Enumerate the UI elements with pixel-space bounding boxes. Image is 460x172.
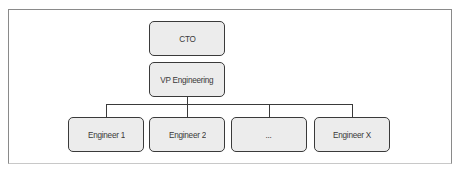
connector-engineer-1 xyxy=(106,104,107,117)
node-engineer-x: Engineer X xyxy=(314,117,390,152)
node-engineer-2-label: Engineer 2 xyxy=(169,129,206,140)
node-vp-engineering: VP Engineering xyxy=(149,62,225,97)
node-engineer-ellipsis: ... xyxy=(231,117,307,152)
node-vp-engineering-label: VP Engineering xyxy=(160,74,213,85)
connector-engineer-x xyxy=(352,104,353,117)
connector-engineer-2 xyxy=(187,104,188,117)
connector-horizontal-bus xyxy=(106,104,354,105)
node-cto-label: CTO xyxy=(179,33,195,44)
node-engineer-ellipsis-label: ... xyxy=(266,129,272,140)
node-cto: CTO xyxy=(149,21,225,56)
connector-engineer-ellipsis xyxy=(269,104,270,117)
node-engineer-1-label: Engineer 1 xyxy=(88,129,125,140)
node-engineer-x-label: Engineer X xyxy=(333,129,371,140)
node-engineer-1: Engineer 1 xyxy=(68,117,144,152)
node-engineer-2: Engineer 2 xyxy=(149,117,225,152)
